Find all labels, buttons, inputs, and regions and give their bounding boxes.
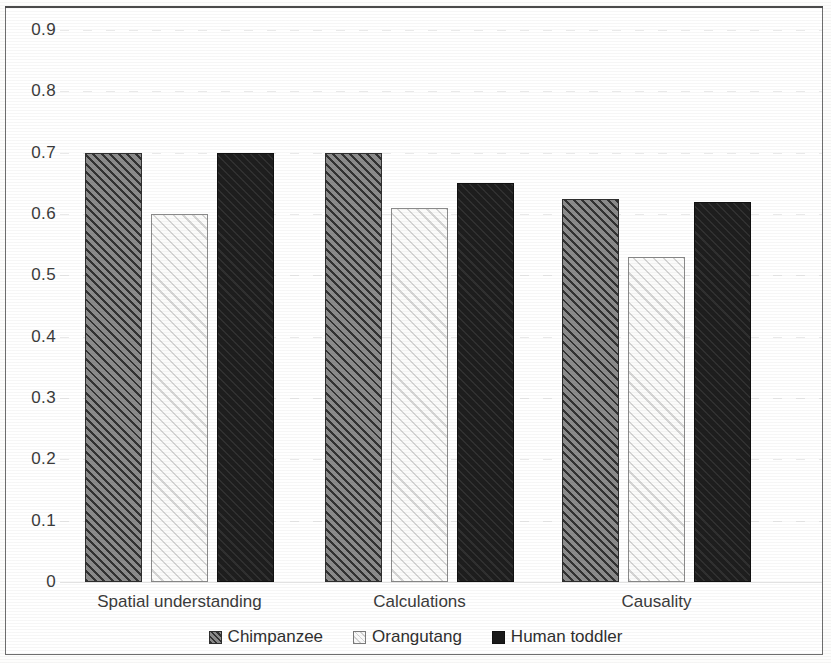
legend-swatch-icon xyxy=(353,631,366,644)
legend: ChimpanzeeOrangutangHuman toddler xyxy=(0,627,831,647)
bar xyxy=(628,257,685,582)
bar xyxy=(85,153,142,582)
plot-area xyxy=(60,30,822,582)
legend-swatch-icon xyxy=(209,631,222,644)
bar xyxy=(562,199,619,582)
y-axis-tick-label: 0.6 xyxy=(4,204,56,224)
x-axis-baseline xyxy=(60,582,822,583)
y-axis-tick-label: 0.7 xyxy=(4,143,56,163)
legend-item: Orangutang xyxy=(353,627,462,647)
bar xyxy=(457,183,514,582)
bar xyxy=(325,153,382,582)
y-axis-tick-label: 0.4 xyxy=(4,327,56,347)
y-axis-tick-label: 0 xyxy=(4,572,56,592)
y-axis-tick-label: 0.2 xyxy=(4,449,56,469)
x-axis-category-label: Calculations xyxy=(373,592,466,612)
y-axis-tick-label: 0.1 xyxy=(4,511,56,531)
legend-swatch-icon xyxy=(492,631,505,644)
y-axis-tick-label: 0.8 xyxy=(4,81,56,101)
y-axis-tick-label: 0.9 xyxy=(4,20,56,40)
bar-chart-figure: 0.90.80.70.60.50.40.30.20.10 Spatial und… xyxy=(0,0,831,663)
legend-label: Human toddler xyxy=(511,627,623,647)
y-axis-tick-label: 0.5 xyxy=(4,265,56,285)
y-axis: 0.90.80.70.60.50.40.30.20.10 xyxy=(0,30,56,582)
bar xyxy=(217,153,274,582)
gridline xyxy=(60,91,822,92)
bar xyxy=(151,214,208,582)
legend-label: Chimpanzee xyxy=(228,627,323,647)
y-axis-tick-label: 0.3 xyxy=(4,388,56,408)
gridline xyxy=(60,30,822,31)
gridline xyxy=(60,153,822,154)
x-axis-category-label: Spatial understanding xyxy=(97,592,261,612)
bar xyxy=(391,208,448,582)
bar xyxy=(694,202,751,582)
x-axis-category-label: Causality xyxy=(622,592,692,612)
legend-item: Human toddler xyxy=(492,627,623,647)
legend-item: Chimpanzee xyxy=(209,627,323,647)
legend-label: Orangutang xyxy=(372,627,462,647)
